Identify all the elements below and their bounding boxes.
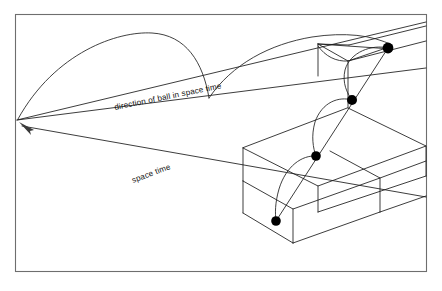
spacetime-diagram: direction of ball in space time space ti… <box>0 0 442 291</box>
perspective-rays <box>17 22 426 197</box>
staircase-blocks <box>243 26 426 243</box>
ball-1 <box>383 43 394 54</box>
ground-slab <box>380 161 426 212</box>
ball-4 <box>271 216 281 226</box>
step-low <box>243 151 380 243</box>
space-time-ray <box>22 126 426 197</box>
arc-far-2 <box>209 35 392 98</box>
ball-2 <box>347 95 357 105</box>
step-low-bottom-front <box>293 212 380 243</box>
bounce-arc-2 <box>313 99 352 156</box>
step-top <box>318 26 426 94</box>
space-time-label: space time <box>131 162 173 185</box>
step-low-bottom-left <box>243 213 293 243</box>
figure-canvas: direction of ball in space time space ti… <box>0 0 442 291</box>
diagram-frame <box>16 15 427 272</box>
direction-of-ball-label: direction of ball in space time <box>114 81 223 112</box>
ground-front-edge <box>380 196 426 212</box>
step-low-top-face <box>243 151 380 209</box>
ground-top-edge <box>380 161 426 178</box>
step-middle-top-face <box>243 108 426 186</box>
ball-3 <box>311 151 321 161</box>
arrow-head-icon <box>19 122 34 135</box>
horizon-lower-ray <box>17 68 426 120</box>
bounce-arc-3 <box>275 156 316 221</box>
